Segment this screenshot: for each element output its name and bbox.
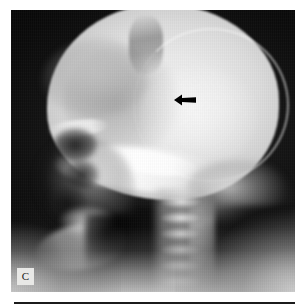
radiograph-panel: C xyxy=(11,10,295,292)
caption-rule xyxy=(14,302,295,304)
arrow-left-icon xyxy=(174,94,196,106)
orbit xyxy=(53,128,97,162)
soft-tissue-wash-right xyxy=(175,172,295,292)
panel-label: C xyxy=(17,268,34,285)
figure-root: C xyxy=(0,0,307,307)
